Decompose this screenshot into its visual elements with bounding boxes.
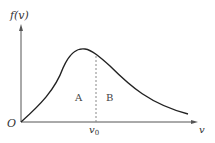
v0-label: v0 (89, 124, 99, 137)
region-a-label: A (74, 92, 83, 103)
x-axis (21, 120, 198, 124)
distribution-curve (21, 49, 188, 122)
y-axis-arrow-icon (19, 24, 23, 31)
distribution-diagram: f(v) O v v0 A B (0, 0, 215, 143)
y-axis (19, 24, 23, 122)
origin-label: O (7, 117, 16, 130)
y-axis-label: f(v) (9, 9, 29, 22)
x-axis-arrow-icon (191, 120, 198, 124)
region-b-label: B (106, 92, 113, 103)
x-axis-label: v (199, 124, 205, 135)
